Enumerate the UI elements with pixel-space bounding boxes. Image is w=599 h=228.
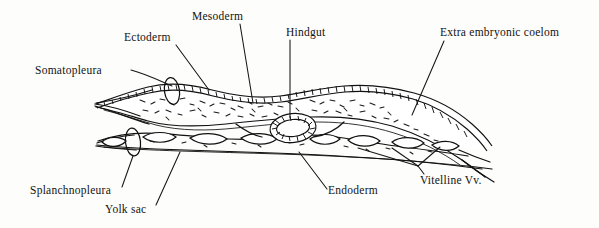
splanchnopleura-lasso [124,127,142,156]
leader-vitelline-2 [392,148,418,166]
label-extra-embryonic-coelom: Extra embryonic coelom [440,26,559,39]
label-vitelline-vv: Vitelline Vv. [420,174,482,186]
vitelline-vessel [432,141,459,150]
vitelline-vessel [102,137,126,146]
leader-yolk-sac [156,152,180,205]
leader-vitelline-stem [418,166,424,174]
vitelline-vessel [143,133,176,143]
label-mesoderm: Mesoderm [192,10,243,22]
vitelline-vessel [190,134,227,145]
embryology-figure: Somatopleura Ectoderm Mesoderm Hindgut E… [0,0,599,228]
leader-endoderm [299,152,327,189]
leader-mesoderm [240,24,253,103]
label-somatopleura: Somatopleura [35,64,102,77]
label-splanchnopleura: Splanchnopleura [30,184,111,197]
vitelline-vessel [310,135,340,145]
leader-ectoderm [176,45,209,90]
leader-somatopleura [131,70,172,86]
splanchnopleura-lower-contour [97,145,482,169]
splanchnopleura-right-tail [459,150,490,162]
label-hindgut: Hindgut [286,26,326,39]
label-endoderm: Endoderm [328,184,378,196]
leader-vitelline-1 [358,148,418,166]
leader-splanchnopleura [122,156,133,187]
label-ectoderm: Ectoderm [124,31,171,43]
label-yolk-sac: Yolk sac [105,203,146,215]
diagram-canvas: Somatopleura Ectoderm Mesoderm Hindgut E… [0,0,599,228]
